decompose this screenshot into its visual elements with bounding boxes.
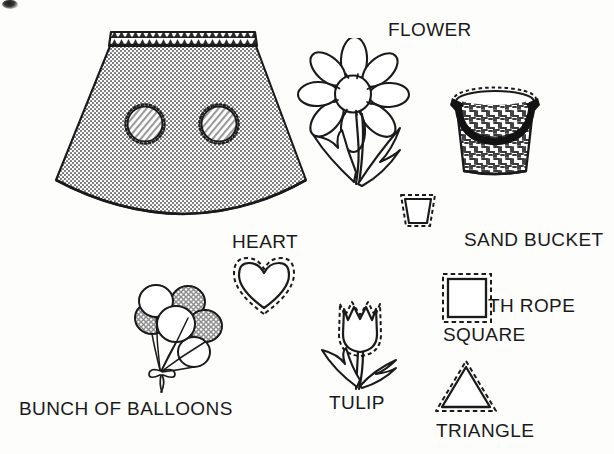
bunch-of-balloons-label: BUNCH OF BALLOONS [19, 398, 233, 419]
skirt-applique-circle-left [125, 104, 164, 143]
tulip-figure [310, 282, 410, 392]
pattern-sheet: FLOWER [0, 0, 614, 454]
triangle-template-figure [431, 356, 501, 418]
skirt-figure [48, 30, 318, 220]
square-label: SQUARE [443, 324, 526, 345]
skirt-applique-circle-right [199, 104, 238, 143]
heart-template-figure [228, 252, 300, 320]
corner-smudge-mark [2, 0, 18, 9]
sand-bucket-figure [440, 74, 550, 184]
bunch-of-balloons-figure [126, 282, 230, 394]
flower-figure [296, 38, 416, 188]
square-template-figure [437, 268, 497, 328]
sand-bucket-label-line1: SAND BUCKET [464, 229, 604, 250]
triangle-label: TRIANGLE [436, 420, 534, 441]
tulip-label: TULIP [329, 392, 385, 413]
flower-label: FLOWER [388, 19, 472, 40]
heart-label: HEART [232, 231, 298, 252]
bucket-template-figure [392, 186, 444, 236]
